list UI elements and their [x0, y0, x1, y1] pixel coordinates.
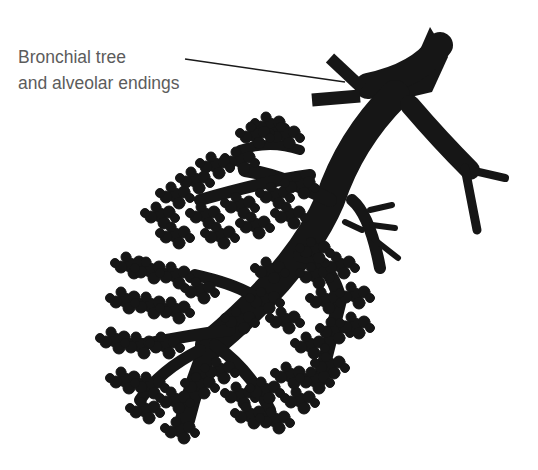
bronchial-tree-silhouette	[96, 27, 506, 444]
bronchial-tree-illustration	[0, 0, 538, 470]
leader-line	[185, 59, 345, 82]
